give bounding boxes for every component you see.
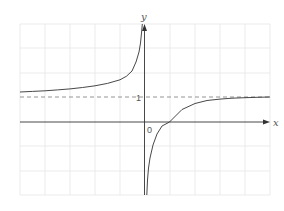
y-axis bbox=[142, 24, 147, 195]
y-tick-label-1: 1 bbox=[136, 93, 141, 103]
curve-left-branch bbox=[20, 24, 142, 92]
function-graph: x y 0 1 bbox=[0, 0, 284, 211]
x-axis-arrow-icon bbox=[263, 120, 270, 125]
grid bbox=[20, 24, 270, 195]
x-axis bbox=[20, 120, 270, 125]
x-axis-label: x bbox=[273, 117, 279, 128]
y-axis-label: y bbox=[140, 11, 147, 22]
origin-label: 0 bbox=[147, 125, 152, 135]
y-axis-arrow-icon bbox=[142, 24, 147, 31]
